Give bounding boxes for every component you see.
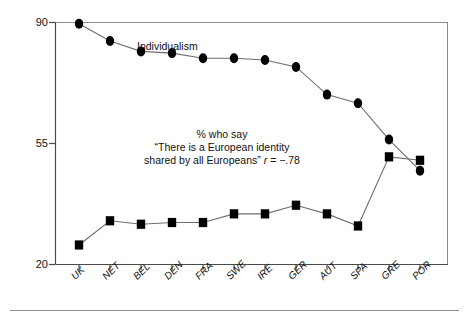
correlation-symbol: r xyxy=(264,154,268,166)
data-point-square xyxy=(137,220,145,229)
data-point-circle xyxy=(323,90,331,100)
correlation-value: = −.78 xyxy=(270,154,300,166)
identity-line-3: shared by all Europeans” r = −.78 xyxy=(112,154,332,167)
data-point-circle xyxy=(230,53,238,63)
data-point-circle xyxy=(75,19,83,29)
identity-line-2: “There is a European identity xyxy=(112,141,332,154)
data-point-circle xyxy=(106,36,114,46)
data-point-square xyxy=(354,221,362,230)
data-point-circle xyxy=(261,55,269,65)
identity-line-3-text: shared by all Europeans” xyxy=(144,154,261,166)
identity-line-1: % who say xyxy=(112,128,332,141)
data-point-square xyxy=(168,218,176,227)
data-point-square xyxy=(106,216,114,225)
footer-rule xyxy=(10,310,459,311)
series-label-individualism: Individualism xyxy=(137,40,198,52)
polyline-square xyxy=(79,157,420,245)
data-point-square xyxy=(261,209,269,218)
data-point-circle xyxy=(292,62,300,72)
data-point-square xyxy=(385,152,393,161)
data-point-circle xyxy=(416,166,424,176)
data-point-square xyxy=(230,209,238,218)
data-point-circle xyxy=(354,98,362,108)
series-label-identity: % who say “There is a European identity … xyxy=(112,128,332,167)
data-point-square xyxy=(416,156,424,165)
chart-figure: 90 55 20 UKNETBELDENFRASWEIREGERAUTSPAGR… xyxy=(0,0,469,325)
data-point-square xyxy=(323,209,331,218)
data-point-square xyxy=(75,240,83,249)
data-point-square xyxy=(199,218,207,227)
data-point-circle xyxy=(199,53,207,63)
data-point-square xyxy=(292,201,300,210)
data-point-circle xyxy=(385,135,393,145)
series-line-identity xyxy=(79,157,420,245)
